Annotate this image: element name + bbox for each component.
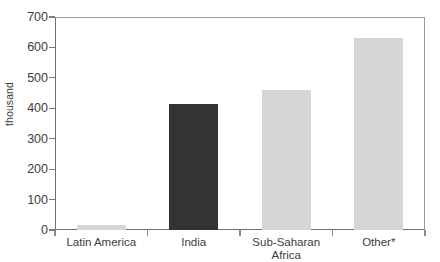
- y-axis-tick-label: 0: [8, 224, 48, 237]
- y-axis-tick-label: 500: [8, 72, 48, 85]
- bar: [354, 38, 403, 230]
- y-axis-tick-label: 600: [8, 41, 48, 54]
- x-axis-category-label: Other*: [323, 236, 436, 249]
- y-axis-tick-label: 200: [8, 163, 48, 176]
- bars-layer: [55, 17, 425, 230]
- y-axis-tick-label: 700: [8, 11, 48, 24]
- bar-chart: thousand 0100200300400500600700 Latin Am…: [0, 0, 440, 262]
- y-axis-tick-label: 400: [8, 102, 48, 115]
- y-axis-tick-label: 100: [8, 193, 48, 206]
- bar: [77, 225, 126, 230]
- bar: [262, 90, 311, 230]
- y-axis-tick-label: 300: [8, 132, 48, 145]
- bar: [169, 104, 218, 230]
